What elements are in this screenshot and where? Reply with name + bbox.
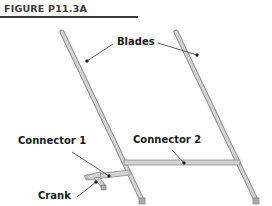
right-blade (176, 32, 259, 204)
mechanism-diagram (0, 0, 272, 206)
label-blades: Blades (117, 36, 155, 47)
label-crank: Crank (38, 190, 71, 201)
label-connector-2: Connector 2 (133, 134, 201, 145)
label-connector-1: Connector 1 (18, 135, 86, 146)
